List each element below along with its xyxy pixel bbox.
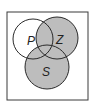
set-s-label: S — [42, 65, 50, 79]
venn-diagram: P Z S — [0, 0, 94, 106]
set-z-label: Z — [55, 33, 64, 47]
set-p-label: P — [27, 34, 35, 48]
